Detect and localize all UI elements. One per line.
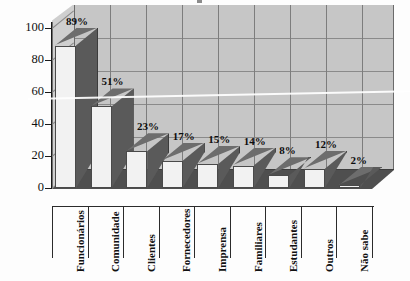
bar-front-face bbox=[304, 169, 325, 188]
gridline-horizontal bbox=[75, 71, 393, 72]
bar-value-label: 2% bbox=[350, 155, 367, 166]
bar-value-label: 89% bbox=[66, 16, 88, 27]
x-axis-separator bbox=[265, 206, 266, 258]
y-tick-label: 20 bbox=[0, 149, 44, 162]
x-axis-separator bbox=[159, 206, 160, 258]
bar-value-label: 12% bbox=[315, 139, 337, 150]
bar-front-face bbox=[162, 161, 183, 188]
y-tick-label: 100 bbox=[0, 21, 44, 34]
category-label: Estudantes bbox=[288, 220, 299, 272]
x-axis-separator bbox=[123, 206, 124, 258]
bar-front-face bbox=[55, 46, 76, 188]
plot-left-edge bbox=[52, 22, 53, 188]
y-tick bbox=[45, 156, 52, 157]
y-tick bbox=[45, 28, 52, 29]
bar-value-label: 15% bbox=[208, 134, 230, 145]
x-axis-separator bbox=[88, 206, 89, 258]
bar-front-face bbox=[233, 166, 254, 188]
bar[interactable] bbox=[339, 167, 382, 188]
x-axis-separator bbox=[230, 206, 231, 258]
category-label: Clientes bbox=[146, 234, 157, 272]
title-fragment bbox=[197, 0, 202, 3]
category-label: Familiares bbox=[253, 222, 264, 272]
x-axis-separator bbox=[336, 206, 337, 258]
y-tick bbox=[45, 188, 52, 189]
x-axis-baseline bbox=[52, 206, 374, 207]
bar-front-face bbox=[197, 164, 218, 188]
y-tick-label: 40 bbox=[0, 117, 44, 130]
bar-value-label: 17% bbox=[173, 131, 195, 142]
bar-front-face bbox=[126, 151, 147, 188]
category-label: Comunidade bbox=[110, 211, 121, 272]
y-tick bbox=[45, 124, 52, 125]
y-tick-label: 80 bbox=[0, 53, 44, 66]
bar-front-face bbox=[339, 185, 360, 188]
y-axis-line bbox=[51, 22, 52, 189]
category-label: Não sabe bbox=[359, 230, 370, 272]
bar-value-label: 14% bbox=[244, 136, 266, 147]
category-label: Fornecedores bbox=[181, 209, 192, 272]
bar-value-label: 51% bbox=[102, 76, 124, 87]
cropped-title-area bbox=[0, 0, 410, 5]
bar-front-face bbox=[91, 106, 112, 188]
y-tick bbox=[45, 60, 52, 61]
bar-front-face bbox=[268, 175, 289, 188]
x-axis-separator bbox=[194, 206, 195, 258]
bar-value-label: 8% bbox=[279, 145, 296, 156]
x-axis-separator bbox=[372, 206, 373, 258]
y-tick bbox=[45, 92, 52, 93]
x-axis-separator bbox=[301, 206, 302, 258]
category-label: Funcionários bbox=[75, 210, 86, 272]
bar-value-label: 23% bbox=[137, 121, 159, 132]
gridline-vertical bbox=[362, 5, 363, 169]
y-tick-label: 60 bbox=[0, 85, 44, 98]
y-tick-label: 0 bbox=[0, 181, 44, 194]
gridline-horizontal bbox=[75, 38, 393, 39]
category-label: Imprensa bbox=[217, 227, 228, 272]
category-label: Outros bbox=[324, 239, 335, 272]
y-axis-labels: 020406080100 bbox=[0, 0, 44, 281]
x-axis-separator bbox=[52, 206, 53, 258]
bar-chart: 020406080100 89%51%23%17%15%14%8%12%2% F… bbox=[0, 0, 410, 281]
